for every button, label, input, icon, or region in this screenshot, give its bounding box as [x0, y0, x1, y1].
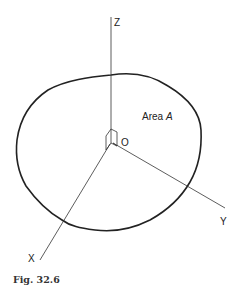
- x-axis: [40, 144, 110, 260]
- y-axis-label: Y: [220, 216, 227, 227]
- x-axis-label: X: [28, 253, 35, 264]
- z-axis-label: Z: [114, 17, 120, 28]
- area-label: Area A: [142, 111, 173, 122]
- diagram-canvas: Z Y X O Area A Fig. 32.6: [0, 0, 241, 286]
- origin-label: O: [121, 137, 129, 148]
- area-label-prefix: Area: [142, 111, 166, 122]
- figure-caption: Fig. 32.6: [13, 274, 60, 285]
- area-label-symbol: A: [165, 111, 173, 122]
- y-axis: [113, 143, 225, 208]
- normal-marker-icon: [106, 129, 117, 150]
- area-outline: [16, 74, 201, 231]
